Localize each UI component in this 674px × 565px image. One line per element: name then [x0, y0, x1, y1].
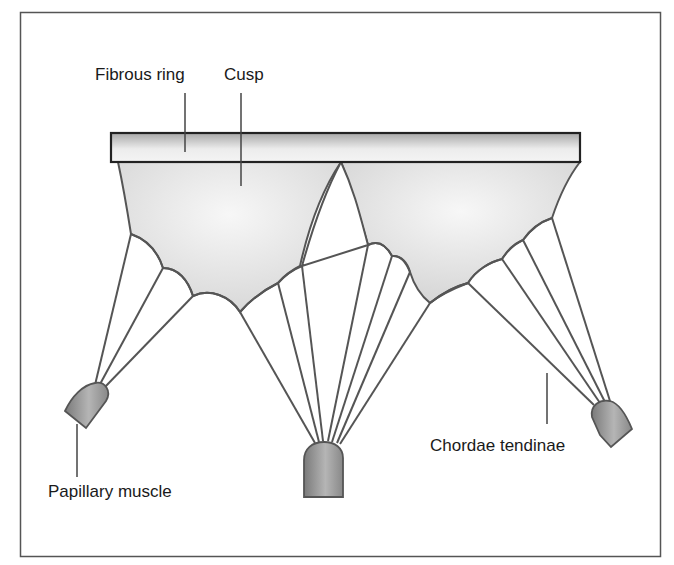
papillary-muscle-central	[304, 442, 343, 497]
label-fibrous-ring: Fibrous ring	[95, 66, 185, 83]
label-papillary-muscle: Papillary muscle	[48, 483, 172, 500]
label-cusp: Cusp	[224, 66, 264, 83]
label-chordae-tendinae: Chordae tendinae	[430, 437, 565, 454]
fibrous-ring	[111, 133, 580, 162]
valve-diagram	[0, 0, 674, 565]
